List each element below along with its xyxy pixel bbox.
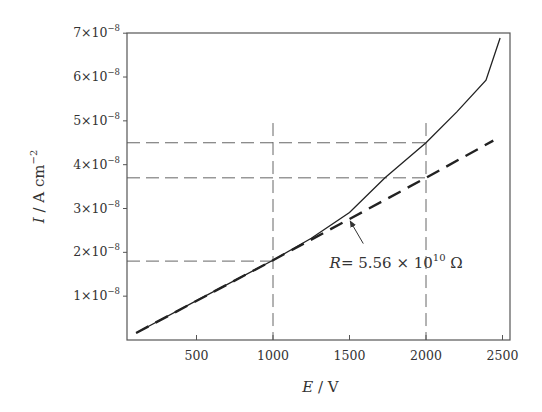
resistance-exp: 10 — [433, 252, 446, 263]
resistance-var: R — [329, 254, 341, 272]
plot-frame — [127, 33, 510, 340]
y-tick-label: 1×10−8 — [73, 286, 120, 303]
x-tick-label: 1500 — [334, 348, 366, 363]
y-tick-exponent: −8 — [107, 23, 120, 33]
x-axis-label: E / V — [301, 378, 340, 396]
y-axis-unit: A cm — [30, 164, 48, 203]
y-tick-mantissa: 1×10 — [73, 288, 107, 303]
x-tick-label: 1000 — [257, 348, 289, 363]
y-tick-mantissa: 6×10 — [73, 69, 107, 84]
y-tick-exponent: −8 — [107, 155, 120, 165]
y-axis-unit-exp: −2 — [28, 150, 39, 165]
y-tick-label: 2×10−8 — [73, 242, 120, 259]
y-tick-mantissa: 7×10 — [73, 25, 107, 40]
y-tick-label: 4×10−8 — [73, 155, 120, 172]
x-axis-sep: / — [313, 378, 328, 396]
y-axis-sep: / — [30, 203, 48, 218]
y-tick-exponent: −8 — [107, 67, 120, 77]
x-axis-unit: V — [327, 378, 340, 396]
y-tick-exponent: −8 — [107, 199, 120, 209]
x-tick-label: 2500 — [487, 348, 519, 363]
y-tick-mantissa: 2×10 — [73, 244, 107, 259]
y-tick-mantissa: 3×10 — [73, 201, 107, 216]
resistance-unit: Ω — [446, 254, 463, 272]
y-axis-ticks: 1×10−82×10−83×10−84×10−85×10−86×10−87×10… — [73, 23, 127, 303]
annotation-arrow — [350, 221, 363, 243]
y-tick-exponent: −8 — [107, 242, 120, 252]
x-tick-label: 500 — [185, 348, 209, 363]
chart: 5001000150020002500 1×10−82×10−83×10−84×… — [0, 0, 542, 412]
y-tick-label: 6×10−8 — [73, 67, 120, 84]
reference-lines — [127, 123, 426, 340]
y-tick-label: 3×10−8 — [73, 199, 120, 216]
y-tick-mantissa: 4×10 — [73, 157, 107, 172]
resistance-value: = 5.56 × 10 — [341, 254, 433, 272]
x-axis-ticks: 5001000150020002500 — [185, 335, 519, 363]
y-tick-label: 7×10−8 — [73, 23, 120, 40]
data-line — [136, 38, 500, 333]
resistance-annotation: R= 5.56 × 1010 Ω — [329, 252, 463, 272]
y-tick-label: 5×10−8 — [73, 111, 120, 128]
y-tick-mantissa: 5×10 — [73, 113, 107, 128]
y-tick-exponent: −8 — [107, 286, 120, 296]
x-axis-var: E — [301, 378, 313, 396]
y-axis-label: I / A cm−2 — [28, 150, 48, 225]
series-group — [136, 38, 500, 333]
y-tick-exponent: −8 — [107, 111, 120, 121]
x-tick-label: 2000 — [410, 348, 442, 363]
annotations: R= 5.56 × 1010 Ω — [329, 221, 463, 271]
